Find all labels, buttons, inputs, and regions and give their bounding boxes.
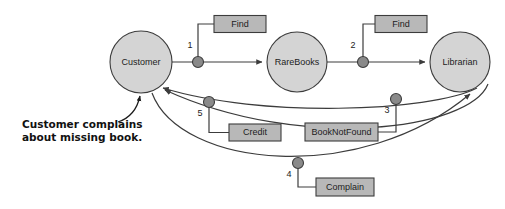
rarebooks-label: RareBooks bbox=[275, 57, 320, 67]
message-3-sequence-number: 3 bbox=[384, 105, 389, 115]
message-1-sequence-number: 1 bbox=[187, 40, 192, 50]
object-customer[interactable]: Customer bbox=[110, 31, 172, 93]
message-4-label: Complain bbox=[326, 182, 364, 192]
message-5-label: Credit bbox=[243, 127, 268, 137]
collaboration-diagram-canvas: Customer RareBooks Librarian 1 Find 2 Fi… bbox=[0, 0, 505, 209]
message-2-dot[interactable] bbox=[358, 57, 369, 68]
message-3-dot[interactable] bbox=[391, 94, 402, 105]
message-4-sequence-number: 4 bbox=[286, 169, 291, 179]
note-line-1: Customer complains bbox=[22, 118, 142, 130]
object-rarebooks[interactable]: RareBooks bbox=[267, 32, 327, 92]
annotation-note: Customer complains about missing book. bbox=[22, 96, 142, 143]
message-1-connector bbox=[198, 24, 214, 62]
message-1-dot[interactable] bbox=[193, 57, 204, 68]
message-2-label: Find bbox=[392, 19, 410, 29]
librarian-label: Librarian bbox=[442, 57, 477, 67]
message-1-find[interactable]: 1 Find bbox=[187, 16, 266, 68]
message-4-complain[interactable]: 4 Complain bbox=[286, 158, 374, 197]
message-4-dot[interactable] bbox=[293, 158, 304, 169]
message-3-booknotfound[interactable]: 3 BookNotFound bbox=[305, 94, 402, 142]
note-line-2: about missing book. bbox=[22, 131, 142, 143]
message-5-sequence-number: 5 bbox=[197, 108, 202, 118]
message-5-dot[interactable] bbox=[204, 97, 215, 108]
return-arcs bbox=[152, 84, 488, 156]
message-3-label: BookNotFound bbox=[311, 127, 371, 137]
message-2-sequence-number: 2 bbox=[350, 40, 355, 50]
customer-label: Customer bbox=[121, 57, 160, 67]
message-1-label: Find bbox=[231, 19, 249, 29]
diagram-svg: Customer RareBooks Librarian 1 Find 2 Fi… bbox=[0, 0, 505, 209]
object-librarian[interactable]: Librarian bbox=[430, 32, 490, 92]
message-2-find[interactable]: 2 Find bbox=[350, 16, 427, 68]
